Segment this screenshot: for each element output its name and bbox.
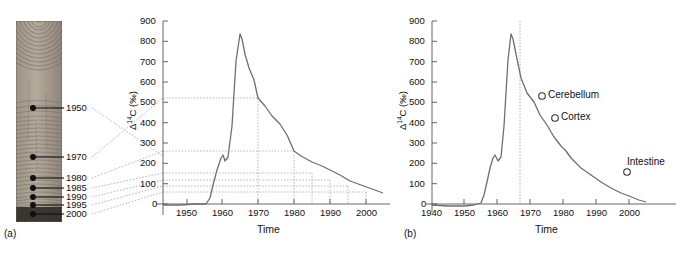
panel-b-marker-intestine (624, 169, 631, 176)
panel-b-y-axis-title: Δ14C (‰) (396, 91, 408, 130)
panel-b-xtick-1950: 1950 (454, 208, 475, 218)
panel-b-ytick-800: 800 (409, 36, 425, 46)
panel-b-annotation-cerebellum: Cerebellum (548, 89, 599, 100)
panel-b-ytick-500: 500 (409, 97, 425, 107)
panel-b-label: (b) (404, 228, 416, 239)
panel-b-xtick-1990: 1990 (586, 208, 607, 218)
panel-b-y-sup: 14 (396, 116, 403, 123)
panel-b-xtick-1940: 1940 (421, 208, 442, 218)
panel-b-xtick-2000: 2000 (619, 208, 640, 218)
panel-b-annotation-intestine: Intestine (627, 156, 665, 167)
panel-b-axes (426, 21, 676, 212)
panel-b-marker-cerebellum (539, 93, 546, 100)
panel-b-y-delta: Δ (397, 124, 408, 130)
panel-b-ytick-300: 300 (409, 138, 425, 148)
panel-b-xtick-1980: 1980 (553, 208, 574, 218)
panel-b-plot (0, 0, 680, 253)
panel-b-curve (432, 34, 646, 206)
panel-b-x-axis-title: Time (535, 223, 558, 235)
panel-b-xtick-1960: 1960 (487, 208, 508, 218)
panel-b-ytick-200: 200 (409, 158, 425, 168)
panel-b-ytick-400: 400 (409, 118, 425, 128)
panel-b-marker-cortex (552, 115, 559, 122)
panel-b-xtick-1970: 1970 (520, 208, 541, 218)
panel-b-y-rest: C (‰) (397, 91, 408, 116)
panel-b-ytick-700: 700 (409, 57, 425, 67)
panel-b-ytick-100: 100 (409, 179, 425, 189)
panel-b-annotation-cortex: Cortex (561, 111, 590, 122)
figure-root: 1950 1970 1980 1985 1990 1995 2000 (a) (0, 0, 680, 253)
panel-b-ytick-600: 600 (409, 77, 425, 87)
panel-b-ytick-900: 900 (409, 16, 425, 26)
